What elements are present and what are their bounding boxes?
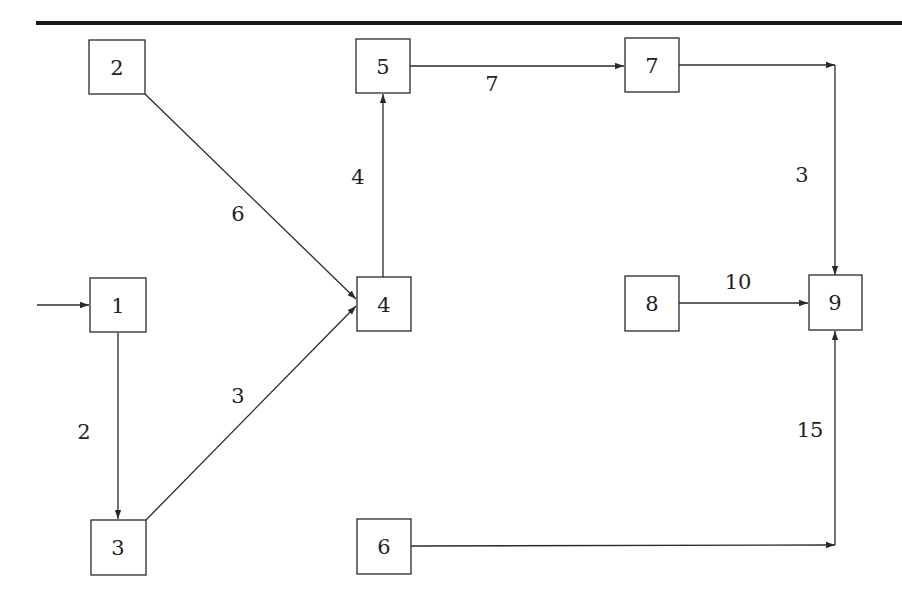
node-label: 1 xyxy=(111,294,124,318)
node-4: 4 xyxy=(357,277,411,331)
edge-label: 3 xyxy=(795,163,808,187)
node-label: 4 xyxy=(377,293,390,317)
node-8: 8 xyxy=(625,276,679,331)
edge-3-4: 3 xyxy=(146,306,356,520)
node-label: 5 xyxy=(376,55,389,79)
node-2: 2 xyxy=(89,40,145,94)
edge-5-7: 7 xyxy=(410,66,624,96)
node-label: 8 xyxy=(645,292,658,316)
edge-label: 15 xyxy=(797,418,824,442)
node-label: 9 xyxy=(828,291,841,315)
edge-4-5: 4 xyxy=(351,94,383,277)
edge-label: 2 xyxy=(77,420,90,444)
node-3: 3 xyxy=(91,520,146,575)
edge-label: 4 xyxy=(351,165,364,189)
node-label: 7 xyxy=(645,54,658,78)
edge-label: 3 xyxy=(231,384,244,408)
edge-2-4: 6 xyxy=(145,94,356,299)
edge-6-9: 15 xyxy=(411,331,835,546)
node-5: 5 xyxy=(356,39,410,93)
node-9: 9 xyxy=(809,275,862,330)
edge-label: 10 xyxy=(725,270,752,294)
node-label: 6 xyxy=(377,535,390,559)
edge-1-3: 2 xyxy=(77,333,118,519)
edge-7-9: 3 xyxy=(679,65,835,275)
node-7: 7 xyxy=(625,38,679,92)
edge-label: 6 xyxy=(231,202,244,226)
node-label: 3 xyxy=(111,536,124,560)
node-6: 6 xyxy=(357,519,411,574)
node-1: 1 xyxy=(90,278,146,332)
node-label: 2 xyxy=(110,56,123,80)
network-diagram: 2 6 3 4 7 3 10 15 2 5 xyxy=(0,0,902,601)
edge-8-9: 10 xyxy=(679,270,808,303)
edge-label: 7 xyxy=(485,72,498,96)
